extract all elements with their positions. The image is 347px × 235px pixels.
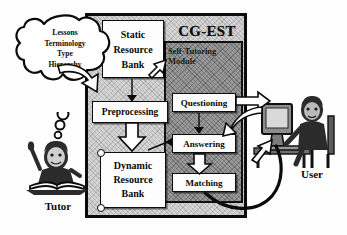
preprocessing-box[interactable]: Preprocessing	[92, 101, 168, 123]
dynamic-bank-line1: Dynamic	[114, 159, 152, 173]
cloud-line-3: Type	[22, 49, 108, 60]
dynamic-bank-line2: Resource	[113, 173, 152, 187]
preprocessing-label: Preprocessing	[102, 107, 159, 117]
dynamic-resource-bank-box[interactable]: Dynamic Resource Bank	[100, 152, 166, 208]
tutor-label: Tutor	[28, 200, 88, 212]
user-label: User	[288, 168, 336, 180]
dynamic-bank-line3: Bank	[122, 187, 145, 201]
tutor-figure-icon	[22, 112, 94, 198]
static-bank-line3: Bank	[122, 57, 145, 72]
self-tutoring-module-label: Self-Tutoring Module	[168, 46, 240, 66]
dynamic-bank-curl-top-icon	[97, 149, 105, 157]
diagram-canvas: CG-EST Self-Tutoring Module Static Resou…	[0, 0, 347, 235]
cloud-line-4: Hierarchy	[22, 60, 108, 71]
user-figure-icon	[252, 88, 340, 170]
questioning-box[interactable]: Questioning	[172, 93, 236, 112]
dynamic-bank-curl-bottom-icon	[97, 204, 105, 212]
cloud-line-1: Lessons	[22, 28, 108, 39]
cgest-title: CG-EST	[172, 22, 242, 40]
answering-label: Answering	[183, 139, 225, 149]
matching-box[interactable]: Matching	[172, 173, 236, 192]
stm-label-line1: Self-Tutoring	[168, 46, 216, 56]
static-bank-line1: Static	[121, 27, 145, 42]
stm-label-line2: Module	[168, 56, 196, 66]
answering-box[interactable]: Answering	[172, 134, 236, 153]
knowledge-cloud-text: Lessons Terminology Type Hierarchy	[22, 28, 108, 70]
cloud-line-2: Terminology	[22, 39, 108, 50]
questioning-label: Questioning	[181, 98, 228, 108]
matching-label: Matching	[186, 178, 223, 188]
static-bank-line2: Resource	[113, 42, 152, 57]
